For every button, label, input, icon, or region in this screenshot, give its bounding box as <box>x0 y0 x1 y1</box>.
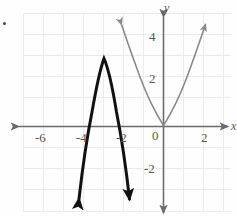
y-axis-label: y <box>164 2 169 14</box>
x-tick-label--4: -4 <box>76 131 87 144</box>
x-axis-label: x <box>231 120 236 132</box>
y-tick-label-4: 4 <box>149 30 156 43</box>
graph-figure: y x -6 -4 -2 2 0 4 2 -2 <box>0 0 237 217</box>
x-tick-label--6: -6 <box>35 131 46 144</box>
y-tick-label--2: -2 <box>144 162 155 175</box>
coordinate-plane-svg <box>0 0 237 217</box>
origin-label: 0 <box>152 129 159 142</box>
x-tick-label-2: 2 <box>201 131 208 144</box>
parabola-dark-downward <box>79 59 130 200</box>
y-tick-label-2: 2 <box>149 72 156 85</box>
x-tick-label--2: -2 <box>116 131 127 144</box>
